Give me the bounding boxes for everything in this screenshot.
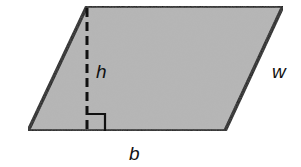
parallelogram-diagram: h w b <box>0 0 301 167</box>
height-label: h <box>96 61 107 82</box>
side-label: w <box>272 61 287 82</box>
parallelogram-shape <box>28 6 283 131</box>
parallelogram-figure: h w b <box>0 0 301 167</box>
base-label: b <box>129 143 140 164</box>
